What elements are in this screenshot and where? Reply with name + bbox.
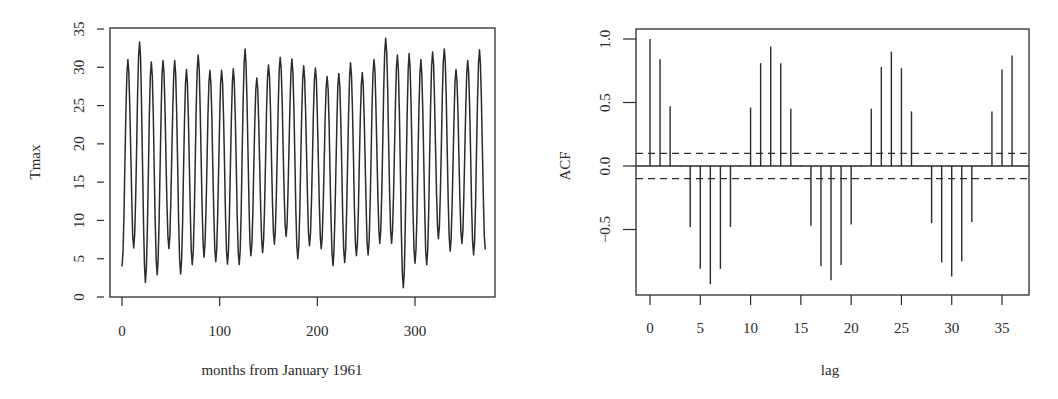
y-tick-label: 0.5 xyxy=(597,93,613,112)
acf-panel: −0.50.00.51.0 05101520253035 ACF lag xyxy=(530,0,1058,399)
y-axis: 05101520253035 xyxy=(71,22,104,301)
y-tick-label: 25 xyxy=(71,98,87,113)
y-axis-label: Tmax xyxy=(27,144,43,179)
x-axis-label: lag xyxy=(821,362,840,378)
y-tick-label: 20 xyxy=(71,136,87,151)
x-tick-label: 30 xyxy=(944,320,959,336)
tmax-series-line xyxy=(122,38,485,288)
x-tick-label: 0 xyxy=(646,320,654,336)
time-series-panel: 05101520253035 0100200300 Tmax months fr… xyxy=(0,0,530,399)
y-tick-label: 15 xyxy=(71,175,87,190)
y-tick-label: 30 xyxy=(71,60,87,75)
time-series-plot: 05101520253035 0100200300 Tmax months fr… xyxy=(0,0,530,399)
y-tick-label: 1.0 xyxy=(597,30,613,49)
x-tick-label: 200 xyxy=(306,323,329,339)
plot-frame xyxy=(636,29,1029,295)
x-tick-label: 100 xyxy=(208,323,231,339)
x-tick-label: 5 xyxy=(697,320,705,336)
y-axis-label: ACF xyxy=(557,151,573,180)
y-tick-label: 5 xyxy=(71,255,87,263)
y-tick-label: 35 xyxy=(71,22,87,37)
y-tick-label: −0.5 xyxy=(597,216,613,243)
acf-stems xyxy=(650,39,1012,284)
x-axis: 0100200300 xyxy=(118,297,426,339)
y-tick-label: 0.0 xyxy=(597,157,613,176)
plot-frame xyxy=(110,28,495,297)
y-tick-label: 0 xyxy=(71,293,87,301)
x-axis-label: months from January 1961 xyxy=(201,362,362,378)
y-axis: −0.50.00.51.0 xyxy=(597,30,636,243)
x-tick-label: 35 xyxy=(995,320,1010,336)
x-tick-label: 10 xyxy=(743,320,758,336)
y-tick-label: 10 xyxy=(71,213,87,228)
x-axis: 05101520253035 xyxy=(646,295,1009,336)
x-tick-label: 20 xyxy=(844,320,859,336)
x-tick-label: 300 xyxy=(404,323,427,339)
acf-plot: −0.50.00.51.0 05101520253035 ACF lag xyxy=(530,0,1058,399)
x-tick-label: 15 xyxy=(793,320,808,336)
x-tick-label: 0 xyxy=(118,323,126,339)
x-tick-label: 25 xyxy=(894,320,909,336)
